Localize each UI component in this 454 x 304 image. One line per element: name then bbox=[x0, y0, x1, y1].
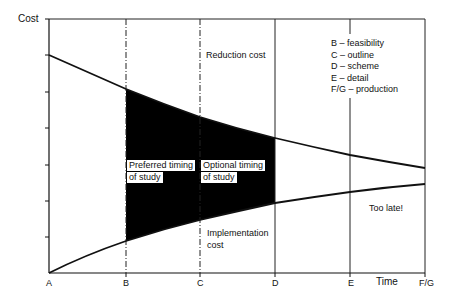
legend-item-production: F/G – production bbox=[331, 84, 398, 96]
reduction-cost-label: Reduction cost bbox=[206, 50, 266, 61]
optional-timing-label-line2: of study bbox=[201, 172, 237, 183]
stage-legend: B – feasibility C – outline D – scheme E… bbox=[331, 38, 398, 96]
legend-item-outline: C – outline bbox=[331, 50, 398, 62]
preferred-timing-label-line1: Preferred timing bbox=[127, 160, 195, 171]
x-tick-d: D bbox=[272, 278, 279, 289]
x-tick-a: A bbox=[46, 278, 52, 289]
x-tick-fg: F/G bbox=[419, 278, 434, 289]
legend-item-feasibility: B – feasibility bbox=[331, 38, 398, 50]
implementation-cost-label-line1: Implementation bbox=[207, 228, 269, 239]
implementation-cost-label-line2: cost bbox=[207, 240, 224, 251]
y-axis-label: Cost bbox=[18, 13, 39, 24]
legend-item-detail: E – detail bbox=[331, 73, 398, 85]
too-late-label: Too late! bbox=[369, 203, 403, 214]
preferred-timing-label-line2: of study bbox=[127, 172, 163, 183]
legend-item-scheme: D – scheme bbox=[331, 61, 398, 73]
x-tick-c: C bbox=[197, 278, 204, 289]
x-tick-e: E bbox=[348, 278, 354, 289]
x-axis-label: Time bbox=[376, 276, 398, 287]
optional-timing-label-line1: Optional timing bbox=[201, 160, 265, 171]
x-tick-b: B bbox=[123, 278, 129, 289]
